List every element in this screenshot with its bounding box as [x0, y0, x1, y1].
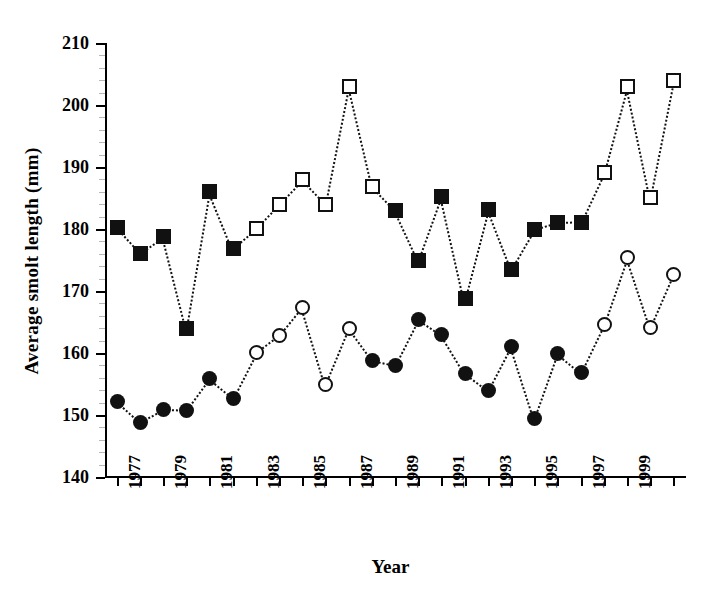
- data-point: [458, 366, 473, 381]
- y-axis-minor-tick: [99, 93, 105, 94]
- x-axis-tick: [163, 477, 165, 486]
- x-axis-tick-label: 1989: [403, 455, 423, 489]
- data-point: [318, 197, 333, 212]
- y-axis-minor-tick: [99, 279, 105, 280]
- data-point: [133, 246, 148, 261]
- data-point: [156, 229, 171, 244]
- y-axis-tick: [96, 415, 105, 417]
- data-point: [620, 250, 635, 265]
- data-point: [620, 79, 635, 94]
- y-axis-tick-label: 210: [33, 34, 89, 52]
- x-axis-tick: [395, 477, 397, 486]
- data-point: [179, 321, 194, 336]
- y-axis-minor-tick: [99, 328, 105, 329]
- series-1-connector: [465, 209, 490, 299]
- data-point: [574, 215, 589, 230]
- x-axis-title-text: Year: [372, 556, 410, 577]
- data-point: [110, 394, 125, 409]
- y-axis-minor-tick: [99, 378, 105, 379]
- x-axis-tick-label: 1999: [635, 455, 655, 489]
- series-2-connector: [604, 257, 629, 325]
- data-point: [318, 377, 333, 392]
- y-axis-tick-label: 200: [33, 96, 89, 114]
- x-axis-tick: [349, 477, 351, 486]
- data-point: [295, 172, 310, 187]
- chart-figure: Average smolt length (mm) Year 140150160…: [0, 0, 715, 591]
- y-axis-minor-tick: [99, 217, 105, 218]
- series-1-connector: [439, 196, 464, 299]
- plot-area: [105, 43, 685, 477]
- y-axis-minor-tick: [99, 316, 105, 317]
- y-axis-minor-tick: [99, 241, 105, 242]
- data-point: [458, 291, 473, 306]
- y-axis-tick-label: 180: [33, 220, 89, 238]
- data-point: [504, 262, 519, 277]
- data-point: [434, 327, 449, 342]
- y-axis-minor-tick: [99, 80, 105, 81]
- x-axis-tick: [441, 477, 443, 486]
- x-axis-tick-label: 1997: [589, 455, 609, 489]
- y-axis-tick-label: 160: [33, 344, 89, 362]
- data-point: [342, 79, 357, 94]
- data-point: [249, 345, 264, 360]
- y-axis-minor-tick: [99, 266, 105, 267]
- x-axis-tick-label: 1995: [542, 455, 562, 489]
- data-point: [156, 402, 171, 417]
- data-point: [574, 365, 589, 380]
- y-axis-minor-tick: [99, 55, 105, 56]
- y-axis-minor-tick: [99, 117, 105, 118]
- y-axis-minor-tick: [99, 390, 105, 391]
- y-axis-tick: [96, 167, 105, 169]
- y-axis-minor-tick: [99, 130, 105, 131]
- series-2-connector: [509, 346, 534, 419]
- series-1-connector: [418, 196, 443, 261]
- data-point: [597, 165, 612, 180]
- series-2-connector: [300, 307, 325, 385]
- x-axis-tick: [256, 477, 258, 486]
- x-axis-tick-label: 1981: [217, 455, 237, 489]
- series-2-connector: [534, 353, 559, 419]
- series-2-connector: [650, 274, 675, 328]
- y-axis-minor-tick: [99, 155, 105, 156]
- data-point: [643, 190, 658, 205]
- y-axis-tick: [96, 353, 105, 355]
- x-axis-tick-label: 1979: [171, 455, 191, 489]
- data-point: [226, 391, 241, 406]
- x-axis-tick: [673, 477, 675, 486]
- data-point: [272, 328, 287, 343]
- data-point: [504, 339, 519, 354]
- series-1-connector: [347, 86, 372, 186]
- y-axis-tick: [96, 229, 105, 231]
- x-axis-tick: [581, 477, 583, 486]
- data-point: [666, 267, 681, 282]
- x-axis-tick-label: 1985: [310, 455, 330, 489]
- data-point: [643, 320, 658, 335]
- y-axis-tick: [96, 43, 105, 45]
- data-point: [110, 220, 125, 235]
- series-1-connector: [625, 86, 650, 197]
- x-axis-tick: [627, 477, 629, 486]
- data-point: [365, 353, 380, 368]
- y-axis-minor-tick: [99, 440, 105, 441]
- y-axis-tick: [96, 291, 105, 293]
- y-axis-minor-tick: [99, 427, 105, 428]
- data-point: [481, 202, 496, 217]
- data-point: [388, 358, 403, 373]
- data-point: [179, 403, 194, 418]
- data-point: [597, 317, 612, 332]
- x-axis-title: Year: [0, 556, 715, 578]
- x-axis-tick-label: 1993: [496, 455, 516, 489]
- y-axis-minor-tick: [99, 68, 105, 69]
- y-axis-title: Average smolt length (mm): [21, 61, 43, 461]
- y-axis-tick: [96, 105, 105, 107]
- y-axis-minor-tick: [99, 254, 105, 255]
- data-point: [388, 203, 403, 218]
- data-point: [295, 300, 310, 315]
- y-axis-minor-tick: [99, 403, 105, 404]
- y-axis-minor-tick: [99, 142, 105, 143]
- data-point: [272, 197, 287, 212]
- data-point: [527, 222, 542, 237]
- data-point: [527, 411, 542, 426]
- data-point: [411, 312, 426, 327]
- data-point: [550, 215, 565, 230]
